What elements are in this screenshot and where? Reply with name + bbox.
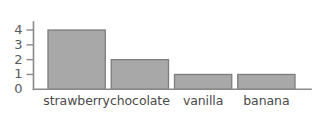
bar-banana bbox=[238, 74, 295, 89]
bar-chart: 01234 strawberrychocolatevanillabanana bbox=[0, 0, 330, 124]
y-axis-label-4: 4 bbox=[14, 22, 22, 37]
bar-chocolate bbox=[111, 60, 168, 90]
bar-vanilla bbox=[175, 74, 232, 89]
x-axis-labels-group: strawberrychocolatevanillabanana bbox=[43, 93, 289, 108]
x-axis-label-banana: banana bbox=[243, 93, 289, 108]
y-axis-ticks-group bbox=[27, 30, 34, 74]
bar-strawberry bbox=[48, 30, 105, 89]
y-axis-label-3: 3 bbox=[14, 37, 22, 52]
y-axis-label-2: 2 bbox=[14, 52, 22, 67]
bars-group bbox=[48, 30, 295, 89]
x-axis-label-chocolate: chocolate bbox=[110, 93, 170, 108]
chart-plot-area: 01234 strawberrychocolatevanillabanana bbox=[0, 0, 330, 124]
x-axis-label-strawberry: strawberry bbox=[43, 93, 110, 108]
x-axis-label-vanilla: vanilla bbox=[183, 93, 223, 108]
y-axis-labels-group: 01234 bbox=[14, 22, 22, 96]
y-axis-label-1: 1 bbox=[14, 66, 22, 81]
y-axis-label-0: 0 bbox=[14, 81, 22, 96]
